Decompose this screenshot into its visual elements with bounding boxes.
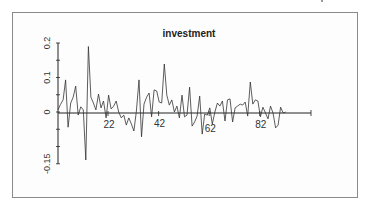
y-tick-label: 0 — [42, 109, 52, 114]
x-tick-label: 22 — [103, 119, 115, 130]
y-tick-label: 0.1 — [42, 71, 52, 84]
y-axis: -0.1500.10.2 — [42, 37, 60, 174]
chart-title: investment — [163, 28, 216, 39]
x-tick-label: 82 — [255, 119, 267, 130]
investment-series-line — [58, 47, 286, 161]
line-chart: investment -0.1500.10.2 22426282 — [0, 0, 367, 209]
y-tick-label: 0.2 — [42, 37, 52, 50]
x-tick-label: 42 — [154, 118, 166, 129]
x-tick-label: 62 — [205, 123, 217, 134]
y-tick-label: -0.15 — [42, 153, 52, 174]
